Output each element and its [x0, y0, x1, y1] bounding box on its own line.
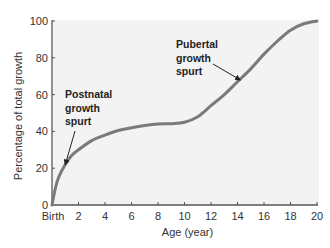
- x-tick-label: 18: [284, 210, 296, 222]
- y-tick-label: 20: [36, 162, 48, 174]
- annotation-text: Pubertal: [176, 38, 218, 50]
- y-tick-label: 60: [36, 89, 48, 101]
- x-tick-label: 8: [155, 210, 161, 222]
- y-tick-label: 40: [36, 125, 48, 137]
- annotation-text: growth: [65, 102, 100, 114]
- x-tick-label: 20: [311, 210, 323, 222]
- x-tick-label: 14: [231, 210, 243, 222]
- annotation-text: growth: [176, 52, 211, 64]
- x-tick-label: Birth: [42, 210, 65, 222]
- y-tick-label: 100: [30, 15, 48, 27]
- x-tick-label: 16: [258, 210, 270, 222]
- y-tick-label: 80: [36, 52, 48, 64]
- annotation-text: Postnatal: [65, 88, 112, 100]
- x-tick-label: 4: [102, 210, 108, 222]
- x-tick-label: 10: [178, 210, 190, 222]
- x-tick-label: 2: [75, 210, 81, 222]
- x-tick-label: 6: [128, 210, 134, 222]
- y-tick-label: 0: [42, 199, 48, 211]
- x-axis-title: Age (year): [162, 226, 213, 238]
- annotation-text: spurt: [176, 65, 203, 77]
- y-axis-title: Percentage of total growth: [12, 52, 24, 180]
- x-tick-label: 12: [205, 210, 217, 222]
- growth-chart: Birth2468101214161820 020406080100 Postn…: [0, 0, 330, 248]
- y-axis-ticks: 020406080100: [30, 15, 55, 211]
- annotation-text: spurt: [65, 115, 92, 127]
